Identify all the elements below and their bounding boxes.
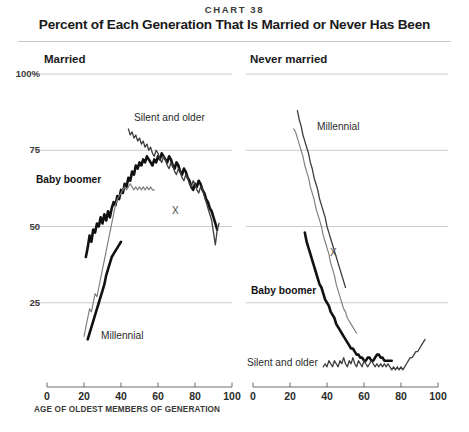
x-axis-tick-label: 40 xyxy=(115,390,127,402)
y-axis-labels: 100%755025 xyxy=(16,68,41,308)
annotation-right-silent-and-older: Silent and older xyxy=(247,357,318,368)
y-axis-tick-label: 25 xyxy=(29,297,40,308)
annotation-right-gen-x: X xyxy=(330,247,337,258)
x-axis-tick-label: 20 xyxy=(78,390,90,402)
series-group-never-married xyxy=(294,111,425,370)
series-line-silent-and-older xyxy=(128,129,219,245)
annotation-left-silent-and-older: Silent and older xyxy=(134,112,205,123)
series-line-millennial xyxy=(88,242,121,340)
annotation-left-gen-x: X xyxy=(172,205,179,216)
x-axis-tick-label: 80 xyxy=(395,390,407,402)
gridlines-right xyxy=(246,74,448,303)
series-line-baby-boomer xyxy=(86,153,217,257)
x-axis-tick-label: 20 xyxy=(284,390,296,402)
x-axis-tick-label: 100 xyxy=(223,390,241,402)
annotation-right-baby-boomer: Baby boomer xyxy=(251,285,316,296)
x-axis-tick-label: 0 xyxy=(44,390,50,402)
x-axis-left: 020406080100 xyxy=(44,383,241,403)
x-axis-caption: AGE OF OLDEST MEMBERS OF GENERATION xyxy=(34,405,220,414)
x-axis-tick-label: 40 xyxy=(321,390,333,402)
x-axis-tick-label: 0 xyxy=(250,390,256,402)
x-axis-tick-label: 100 xyxy=(429,390,447,402)
x-axis-tick-label: 80 xyxy=(189,390,201,402)
annotation-left-baby-boomer: Baby boomer xyxy=(36,174,101,185)
y-axis-tick-label: 100% xyxy=(16,68,41,79)
y-axis-tick-label: 50 xyxy=(29,221,40,232)
series-line-baby-boomer xyxy=(305,233,392,361)
series-group-married xyxy=(84,129,219,339)
annotation-right-millennial: Millennial xyxy=(317,121,359,132)
y-axis-tick-label: 75 xyxy=(29,144,40,155)
series-line-millennial xyxy=(297,111,345,288)
chart-canvas: 100%755025 020406080100 020406080100 AGE… xyxy=(0,0,469,432)
annotation-left-millennial: Millennial xyxy=(101,330,143,341)
x-axis-tick-label: 60 xyxy=(358,390,370,402)
x-axis-tick-label: 60 xyxy=(152,390,164,402)
x-axis-right: 020406080100 xyxy=(250,383,447,403)
series-line-silent-and-older xyxy=(323,339,425,370)
chart-figure: CHART 38 Percent of Each Generation That… xyxy=(0,0,469,432)
